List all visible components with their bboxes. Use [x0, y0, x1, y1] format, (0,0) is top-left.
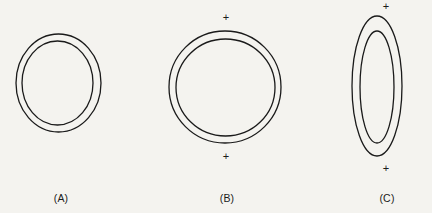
plus-marker-b-top: +	[223, 12, 229, 23]
panel-a-inner-ring	[22, 41, 93, 125]
panel-b-shape-group	[169, 31, 281, 143]
panel-c-inner-ring	[360, 31, 394, 143]
plus-marker-c-bottom: +	[383, 163, 389, 174]
panel-label-b: (B)	[220, 192, 235, 204]
figure-svg-canvas	[0, 0, 432, 213]
plus-marker-b-bottom: +	[223, 151, 229, 162]
panel-a-shape-group	[16, 34, 101, 132]
figure-container: + + + + (A) (B) (C)	[0, 0, 432, 213]
panel-label-c: (C)	[379, 192, 394, 204]
panel-label-a: (A)	[54, 192, 69, 204]
plus-marker-c-top: +	[383, 1, 389, 12]
panel-a-outer-ring	[16, 34, 101, 132]
panel-b-outer-ring	[169, 31, 281, 143]
panel-b-inner-ring	[176, 39, 275, 136]
panel-c-shape-group	[352, 16, 402, 156]
